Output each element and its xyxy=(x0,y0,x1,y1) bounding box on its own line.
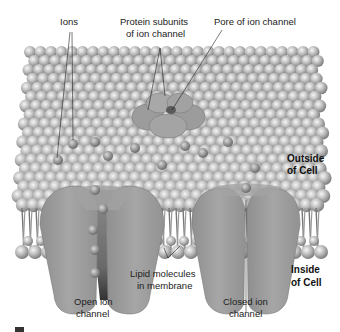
label-open-2: channel xyxy=(76,308,109,319)
open-ion-channel xyxy=(40,185,164,314)
label-outside-1: Outside xyxy=(287,153,324,165)
square-marker-icon xyxy=(15,327,24,332)
label-ions: Ions xyxy=(60,16,78,27)
label-closed-2: channel xyxy=(229,308,262,319)
label-inside-2: of Cell xyxy=(291,277,322,289)
label-pore: Pore of ion channel xyxy=(214,16,296,27)
label-lipid-2: in membrane xyxy=(137,280,192,291)
closed-ion-channel xyxy=(192,183,300,314)
label-outside-2: of Cell xyxy=(287,165,318,177)
ion-channel-diagram: Ions Protein subunits of ion channel Por… xyxy=(0,0,340,332)
label-open-1: Open ion xyxy=(74,296,113,307)
label-protein-subunits-1: Protein subunits xyxy=(120,16,188,27)
label-inside-1: Inside xyxy=(291,264,320,276)
label-closed-1: Closed ion xyxy=(223,296,268,307)
pore-opening xyxy=(166,106,176,114)
label-lipid-1: Lipid molecules xyxy=(130,268,195,279)
label-protein-subunits-2: of ion channel xyxy=(126,28,185,39)
